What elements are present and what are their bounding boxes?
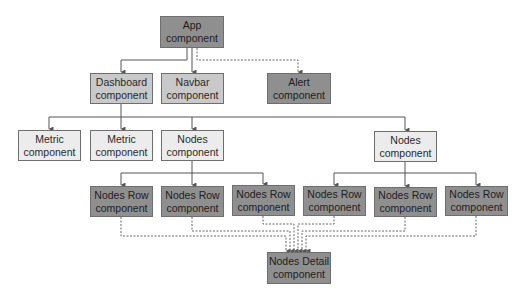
- edge-row3-detail: [263, 216, 294, 251]
- node-alert-label: Alert component: [273, 76, 325, 102]
- edge-row2-detail: [192, 217, 290, 251]
- node-nodes-1-label: Nodes component: [167, 133, 219, 159]
- edge-nodes2-bus: [334, 162, 476, 173]
- edge-row5-detail: [302, 217, 405, 251]
- node-nodes-2-label: Nodes component: [380, 134, 432, 160]
- node-nodes-row-6: Nodes Row component: [445, 186, 508, 216]
- node-metric-2-label: Metric component: [96, 133, 148, 159]
- node-nodes-row-1: Nodes Row component: [90, 186, 153, 217]
- node-dashboard-label: Dashboard component: [96, 76, 148, 102]
- node-nodes-row-3-label: Nodes Row component: [236, 188, 290, 214]
- node-metric-1: Metric component: [18, 130, 81, 161]
- node-nodes-row-3: Nodes Row component: [232, 185, 295, 216]
- edge-app-dashboard: [121, 48, 187, 72]
- node-nodes-row-4: Nodes Row component: [303, 186, 366, 216]
- node-app: App component: [160, 16, 224, 48]
- node-nodes-1: Nodes component: [161, 130, 224, 161]
- node-nodes-row-5: Nodes Row component: [374, 187, 437, 217]
- node-navbar: Navbar component: [161, 73, 224, 104]
- component-hierarchy-diagram: App component Dashboard component Navbar…: [0, 0, 528, 299]
- edge-row4-detail: [298, 216, 334, 251]
- node-nodes-row-1-label: Nodes Row component: [94, 189, 148, 215]
- edge-row6-detail: [306, 216, 476, 251]
- node-nodes-row-5-label: Nodes Row component: [378, 189, 432, 215]
- node-nodes-row-6-label: Nodes Row component: [449, 188, 503, 214]
- node-nodes-detail: Nodes Detail component: [267, 252, 331, 284]
- edge-app-alert: [197, 48, 298, 72]
- node-dashboard: Dashboard component: [90, 73, 153, 104]
- node-metric-2: Metric component: [90, 130, 153, 161]
- node-metric-1-label: Metric component: [24, 133, 76, 159]
- node-alert: Alert component: [267, 73, 331, 104]
- node-nodes-row-2: Nodes Row component: [161, 186, 224, 217]
- node-nodes-row-2-label: Nodes Row component: [165, 189, 219, 215]
- node-nodes-row-4-label: Nodes Row component: [307, 188, 361, 214]
- edge-row1-detail: [121, 217, 286, 251]
- node-app-label: App component: [166, 19, 218, 45]
- node-nodes-2: Nodes component: [374, 131, 437, 162]
- edge-nodes1-bus: [121, 161, 263, 173]
- node-nodes-detail-label: Nodes Detail component: [269, 255, 329, 281]
- node-navbar-label: Navbar component: [167, 76, 219, 102]
